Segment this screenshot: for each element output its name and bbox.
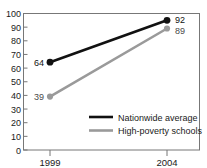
data-point-nationwide-1999 (47, 59, 54, 66)
y-tick-label: 30 (11, 105, 21, 115)
y-tick-label: 100 (6, 9, 21, 19)
y-tick-label: 20 (11, 118, 21, 128)
data-point-high-poverty-2004 (164, 25, 170, 31)
series-high-poverty-schools (47, 25, 170, 99)
legend-item-nationwide-average: Nationwide average (89, 113, 198, 123)
x-axis-ticks (50, 150, 167, 156)
y-tick-label: 80 (11, 36, 21, 46)
series-line-nationwide-average (50, 20, 167, 62)
y-tick-label: 0 (16, 146, 21, 156)
data-label-nationwide-2004: 92 (175, 15, 185, 25)
line-chart: 100 90 80 70 60 50 40 30 20 10 0 1999 20… (0, 0, 207, 168)
x-tick-label: 1999 (39, 157, 60, 168)
y-axis-ticks (24, 14, 28, 151)
y-tick-label: 10 (11, 132, 21, 142)
chart-canvas: 100 90 80 70 60 50 40 30 20 10 0 1999 20… (0, 0, 207, 168)
x-axis-tick-labels: 1999 2004 (39, 157, 177, 168)
y-tick-label: 70 (11, 50, 21, 60)
data-label-high-poverty-2004: 89 (175, 26, 185, 36)
data-label-nationwide-1999: 64 (34, 58, 44, 68)
series-line-high-poverty-schools (50, 29, 167, 97)
legend-label-nationwide-average: Nationwide average (118, 113, 198, 123)
legend-label-high-poverty-schools: High-poverty schools (118, 126, 203, 136)
x-tick-label: 2004 (156, 157, 177, 168)
data-point-high-poverty-1999 (47, 94, 53, 100)
y-tick-label: 60 (11, 64, 21, 74)
data-label-high-poverty-1999: 39 (34, 92, 44, 102)
data-point-nationwide-2004 (164, 17, 171, 24)
y-axis-tick-labels: 100 90 80 70 60 50 40 30 20 10 0 (6, 9, 21, 156)
y-tick-label: 90 (11, 23, 21, 33)
y-tick-label: 40 (11, 91, 21, 101)
series-nationwide-average (47, 17, 171, 66)
legend-item-high-poverty-schools: High-poverty schools (89, 126, 203, 136)
y-tick-label: 50 (11, 77, 21, 87)
chart-legend: Nationwide average High-poverty schools (89, 113, 203, 137)
